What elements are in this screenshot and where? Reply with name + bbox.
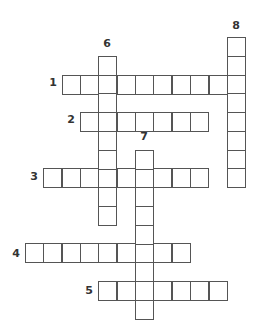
crossword-grid: 12345678 [0,0,260,330]
crossword-cell[interactable] [172,168,191,188]
crossword-cell[interactable] [98,131,117,151]
clue-number-4: 4 [9,248,23,260]
crossword-cell[interactable] [135,262,154,282]
crossword-cell[interactable] [98,281,117,301]
crossword-cell[interactable] [43,168,62,188]
crossword-cell[interactable] [25,243,44,263]
crossword-cell[interactable] [117,75,136,95]
clue-number-6: 6 [100,38,114,50]
crossword-cell[interactable] [135,112,154,132]
crossword-cell[interactable] [190,75,209,95]
clue-number-3: 3 [27,171,41,183]
crossword-cell[interactable] [209,75,228,95]
crossword-cell[interactable] [135,75,154,95]
crossword-cell[interactable] [209,281,228,301]
crossword-cell[interactable] [153,281,172,301]
crossword-cell[interactable] [172,281,191,301]
crossword-cell[interactable] [227,93,246,113]
clue-number-7: 7 [137,131,151,143]
crossword-cell[interactable] [135,225,154,245]
crossword-cell[interactable] [172,112,191,132]
crossword-cell[interactable] [153,75,172,95]
crossword-cell[interactable] [227,56,246,76]
crossword-cell[interactable] [135,281,154,301]
crossword-cell[interactable] [135,150,154,170]
crossword-cell[interactable] [98,93,117,113]
crossword-cell[interactable] [135,206,154,226]
crossword-cell[interactable] [227,37,246,57]
clue-number-5: 5 [82,285,96,297]
crossword-cell[interactable] [227,168,246,188]
crossword-cell[interactable] [153,243,172,263]
crossword-cell[interactable] [98,187,117,207]
clue-number-2: 2 [64,114,78,126]
crossword-cell[interactable] [80,168,99,188]
crossword-cell[interactable] [227,150,246,170]
crossword-cell[interactable] [117,168,136,188]
clue-number-1: 1 [46,77,60,89]
crossword-cell[interactable] [98,112,117,132]
crossword-cell[interactable] [135,168,154,188]
clue-number-8: 8 [229,20,243,32]
crossword-cell[interactable] [98,56,117,76]
crossword-cell[interactable] [62,168,81,188]
crossword-cell[interactable] [227,112,246,132]
crossword-cell[interactable] [80,112,99,132]
crossword-cell[interactable] [190,168,209,188]
crossword-cell[interactable] [153,168,172,188]
crossword-cell[interactable] [80,243,99,263]
crossword-cell[interactable] [227,131,246,151]
crossword-cell[interactable] [98,75,117,95]
crossword-cell[interactable] [43,243,62,263]
crossword-cell[interactable] [190,281,209,301]
crossword-cell[interactable] [135,187,154,207]
crossword-cell[interactable] [172,75,191,95]
crossword-cell[interactable] [135,243,154,263]
crossword-cell[interactable] [62,243,81,263]
crossword-cell[interactable] [117,112,136,132]
crossword-cell[interactable] [98,206,117,226]
crossword-cell[interactable] [117,281,136,301]
crossword-cell[interactable] [98,243,117,263]
crossword-cell[interactable] [190,112,209,132]
crossword-cell[interactable] [62,75,81,95]
crossword-cell[interactable] [135,300,154,320]
crossword-cell[interactable] [98,168,117,188]
crossword-cell[interactable] [153,112,172,132]
crossword-cell[interactable] [117,243,136,263]
crossword-cell[interactable] [172,243,191,263]
crossword-cell[interactable] [98,150,117,170]
crossword-cell[interactable] [80,75,99,95]
crossword-cell[interactable] [227,75,246,95]
